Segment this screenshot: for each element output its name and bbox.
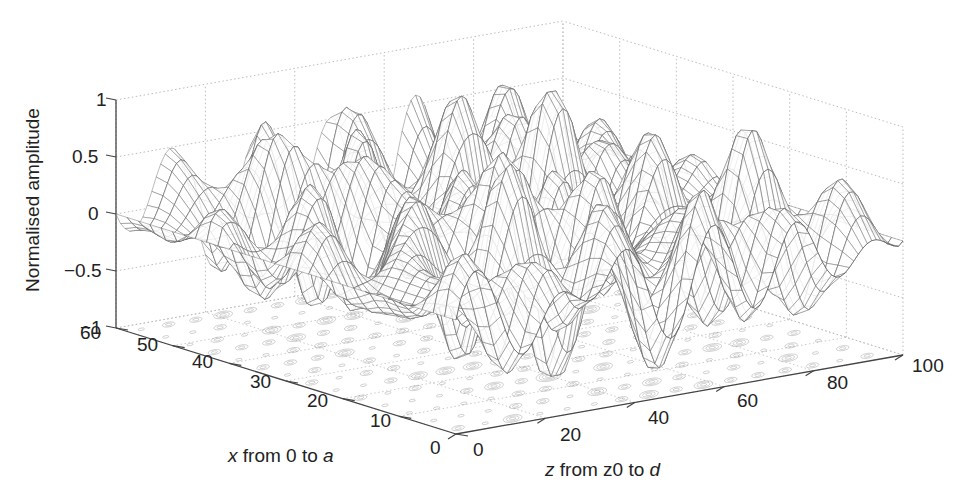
amp-tick-label: 0.5 — [72, 147, 98, 166]
x-axis-var: x — [228, 445, 238, 466]
x-tick-label: 40 — [192, 352, 213, 371]
amp-tick-label: 1 — [96, 90, 107, 109]
x-axis-end: a — [323, 445, 334, 466]
x-tick-label: 10 — [370, 411, 391, 430]
x-tick-label: 50 — [137, 335, 158, 354]
x-tick-label: 20 — [307, 391, 328, 410]
z-axis-mid: from z0 to — [555, 459, 650, 480]
x-tick-label: 60 — [80, 323, 101, 342]
amplitude-axis-title: Normalised amplitude — [22, 108, 44, 292]
z-tick-label: 100 — [912, 356, 944, 375]
amp-tick-label: −0.5 — [64, 261, 102, 280]
x-tick-label: 0 — [430, 438, 441, 457]
amp-tick-label: 0 — [88, 204, 99, 223]
x-tick-label: 30 — [250, 372, 271, 391]
surface-mesh — [116, 85, 903, 376]
z-axis-var: z — [545, 459, 555, 480]
x-axis-mid: from 0 to — [238, 445, 324, 466]
z-axis-title: z from z0 to d — [545, 460, 660, 479]
z-tick-label: 40 — [648, 408, 669, 427]
x-axis-title: x from 0 to a — [228, 446, 334, 465]
z-tick-label: 20 — [560, 425, 581, 444]
z-tick-label: 0 — [473, 440, 484, 459]
surface-plot-canvas — [0, 0, 979, 499]
z-tick-label: 80 — [827, 373, 848, 392]
z-axis-end: d — [650, 459, 661, 480]
z-tick-label: 60 — [737, 391, 758, 410]
